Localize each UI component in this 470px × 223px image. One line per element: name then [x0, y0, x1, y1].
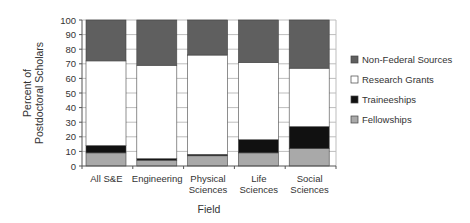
x-category-label: SocialSciences: [290, 173, 329, 195]
bar-segment-research-grants: [238, 62, 278, 139]
bar-segment-traineeships: [289, 127, 329, 149]
x-axis-category-labels: All S&EEngineeringPhysicalSciencesLifeSc…: [90, 173, 329, 195]
bar-stack: [289, 20, 329, 166]
bar-stack: [86, 20, 126, 166]
legend-item: Traineeships: [351, 94, 416, 105]
bar-segment-non-federal-sources: [137, 20, 177, 65]
bar-segment-fellowships: [238, 153, 278, 166]
y-tick-label: 80: [65, 44, 76, 55]
x-axis-title: Field: [198, 203, 221, 215]
y-tick-label: 100: [60, 15, 76, 26]
bar-segment-research-grants: [137, 65, 177, 158]
bar-segment-non-federal-sources: [289, 20, 329, 68]
legend-label: Fellowships: [362, 114, 412, 125]
bar-segment-non-federal-sources: [188, 20, 228, 55]
y-axis-title-text: Percent ofPostdoctoral Scholars: [21, 42, 45, 144]
y-tick-label: 10: [65, 146, 76, 157]
bar-segment-research-grants: [86, 61, 126, 146]
legend-item: Research Grants: [351, 74, 434, 85]
legend: Non-Federal SourcesResearch GrantsTraine…: [351, 54, 453, 125]
legend-swatch: [351, 116, 358, 123]
bar-segment-research-grants: [188, 55, 228, 154]
bar-segment-fellowships: [289, 148, 329, 166]
x-category-label: LifeSciences: [240, 173, 279, 195]
y-tick-label: 40: [65, 102, 76, 113]
bar-segment-non-federal-sources: [238, 20, 278, 62]
bar-segment-traineeships: [86, 146, 126, 153]
x-category-label: All S&E: [90, 173, 122, 184]
legend-label: Traineeships: [362, 94, 416, 105]
legend-swatch: [351, 96, 358, 103]
x-category-label: Engineering: [132, 173, 183, 184]
bar-stack: [238, 20, 278, 166]
y-tick-label: 20: [65, 131, 76, 142]
legend-label: Research Grants: [362, 74, 434, 85]
bar-segment-traineeships: [238, 140, 278, 153]
bar-segment-non-federal-sources: [86, 20, 126, 61]
y-tick-label: 0: [71, 161, 76, 172]
y-tick-label: 70: [65, 58, 76, 69]
bar-stack: [188, 20, 228, 166]
legend-item: Fellowships: [351, 114, 412, 125]
legend-label: Non-Federal Sources: [362, 54, 453, 65]
legend-swatch: [351, 76, 358, 83]
bar-segment-fellowships: [137, 160, 177, 166]
y-tick-label: 50: [65, 88, 76, 99]
y-tick-label: 90: [65, 29, 76, 40]
y-tick-label: 30: [65, 117, 76, 128]
bar-segment-fellowships: [188, 156, 228, 166]
y-axis-title: Percent ofPostdoctoral Scholars: [21, 42, 45, 144]
bar-stack: [137, 20, 177, 166]
y-axis-ticks: 0102030405060708090100: [60, 15, 82, 172]
legend-swatch: [351, 56, 358, 63]
bars: [86, 20, 329, 166]
bar-segment-fellowships: [86, 153, 126, 166]
y-tick-label: 60: [65, 73, 76, 84]
legend-item: Non-Federal Sources: [351, 54, 453, 65]
bar-segment-research-grants: [289, 68, 329, 126]
stacked-bar-chart: 0102030405060708090100 All S&EEngineerin…: [0, 0, 470, 223]
x-category-label: PhysicalSciences: [189, 173, 228, 195]
